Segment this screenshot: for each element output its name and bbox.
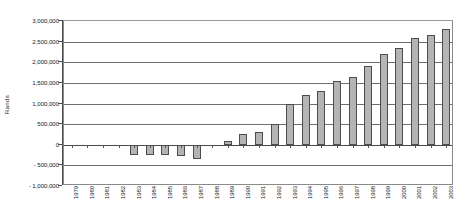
x-tick-label: 2002: [432, 186, 438, 199]
y-axis-tick: [58, 185, 62, 186]
x-axis-tick: [368, 145, 369, 148]
bar-chart-figure: Rands 3,000,0002,500,0002,000,0001,500,0…: [0, 0, 462, 208]
x-tick-label: 2003: [448, 186, 454, 199]
x-axis-tick: [212, 145, 213, 148]
x-tick-label: 1999: [385, 186, 391, 199]
x-axis-tick: [399, 145, 400, 148]
x-axis-tick: [134, 145, 135, 148]
x-axis-tick: [243, 145, 244, 148]
x-tick-label: 1993: [292, 186, 298, 199]
x-tick-label: 1998: [370, 186, 376, 199]
x-axis-tick: [165, 145, 166, 148]
y-axis-title: Rands: [0, 0, 14, 208]
y-axis-tick: [58, 144, 62, 145]
x-tick-label: 1984: [151, 186, 157, 199]
x-tick-label: 1988: [214, 186, 220, 199]
x-axis-tick: [228, 145, 229, 148]
x-axis-tick-labels: 1979198019811982198319841985198619871988…: [63, 186, 453, 208]
x-axis-ticks: [64, 21, 452, 184]
x-axis-tick: [306, 145, 307, 148]
y-tick-label: 1,500,000: [32, 78, 59, 85]
x-axis-tick: [384, 145, 385, 148]
x-axis-tick: [275, 145, 276, 148]
x-tick-label: 1995: [323, 186, 329, 199]
x-axis-tick: [353, 145, 354, 148]
x-tick-label: 2001: [416, 186, 422, 199]
y-tick-label: 3,000,000: [32, 17, 59, 24]
y-tick-label: - 500,000: [34, 161, 59, 168]
x-axis-tick: [415, 145, 416, 148]
y-tick-label: 1,000,000: [32, 99, 59, 106]
y-axis-tick: [58, 82, 62, 83]
x-tick-label: 1997: [354, 186, 360, 199]
y-axis-tick: [58, 61, 62, 62]
x-axis-tick: [197, 145, 198, 148]
x-tick-label: 1983: [136, 186, 142, 199]
x-tick-label: 1981: [104, 186, 110, 199]
x-tick-label: 1989: [229, 186, 235, 199]
y-axis-tick: [58, 123, 62, 124]
x-tick-label: 1982: [120, 186, 126, 199]
y-axis-tick: [58, 164, 62, 165]
x-tick-label: 1990: [245, 186, 251, 199]
x-tick-label: 2000: [401, 186, 407, 199]
y-axis-title-label: Rands: [4, 94, 11, 113]
x-axis-tick: [87, 145, 88, 148]
x-tick-label: 1986: [182, 186, 188, 199]
y-tick-label: 2,500,000: [32, 37, 59, 44]
x-axis-tick: [431, 145, 432, 148]
y-axis-tick: [58, 20, 62, 21]
y-tick-label: - 1,000,000: [29, 182, 59, 189]
x-tick-label: 1994: [307, 186, 313, 199]
x-axis-tick: [337, 145, 338, 148]
x-axis-tick: [259, 145, 260, 148]
x-tick-label: 1991: [260, 186, 266, 199]
y-tick-label: 2,000,000: [32, 58, 59, 65]
y-axis-tick-labels: 3,000,0002,500,0002,000,0001,500,0001,00…: [14, 0, 62, 208]
x-tick-label: 1992: [276, 186, 282, 199]
x-axis-tick: [290, 145, 291, 148]
y-axis-tick: [58, 103, 62, 104]
x-axis-tick: [150, 145, 151, 148]
x-axis-tick: [119, 145, 120, 148]
x-tick-label: 1985: [167, 186, 173, 199]
x-axis-tick: [181, 145, 182, 148]
x-axis-tick: [103, 145, 104, 148]
x-axis-tick: [72, 145, 73, 148]
x-axis-tick: [446, 145, 447, 148]
plot-area: [63, 20, 453, 185]
x-tick-label: 1996: [338, 186, 344, 199]
x-axis-tick: [321, 145, 322, 148]
x-tick-label: 1987: [198, 186, 204, 199]
y-tick-label: 500,000: [37, 120, 59, 127]
x-tick-label: 1979: [73, 186, 79, 199]
y-axis-tick: [58, 41, 62, 42]
x-tick-label: 1980: [89, 186, 95, 199]
